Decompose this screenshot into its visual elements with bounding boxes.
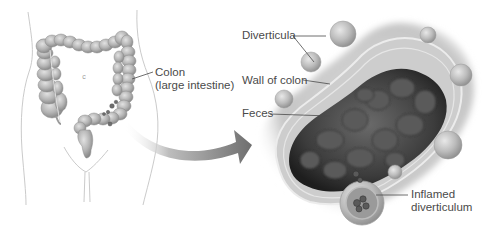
label-inflamed-diverticulum: Inflamed diverticulum <box>411 188 472 214</box>
label-diverticula-text: Diverticula <box>242 29 296 42</box>
label-colon-line1: Colon <box>155 66 234 79</box>
label-wall-of-colon: Wall of colon <box>242 74 307 87</box>
label-inflamed-line2: diverticulum <box>411 201 472 214</box>
colon-illustration <box>36 31 136 158</box>
label-colon: Colon (large intestine) <box>155 66 234 92</box>
label-diverticula: Diverticula <box>242 29 296 42</box>
label-colon-line2: (large intestine) <box>155 79 234 92</box>
label-feces-text: Feces <box>242 107 273 120</box>
label-wall-of-colon-text: Wall of colon <box>242 74 307 87</box>
label-feces: Feces <box>242 107 273 120</box>
marker-letter: c <box>82 73 86 80</box>
magnify-arrow <box>124 122 252 164</box>
label-inflamed-line1: Inflamed <box>411 188 472 201</box>
